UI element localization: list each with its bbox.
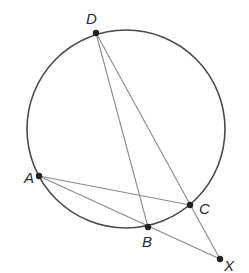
segments bbox=[39, 33, 220, 259]
segment-ac bbox=[39, 176, 190, 205]
segment-dx bbox=[96, 33, 220, 259]
point-c bbox=[187, 202, 193, 208]
label-x: X bbox=[223, 257, 235, 273]
label-b: B bbox=[142, 233, 152, 250]
point-a bbox=[36, 173, 42, 179]
segment-ax bbox=[39, 176, 220, 259]
point-d bbox=[93, 30, 99, 36]
circle-outline bbox=[27, 30, 225, 228]
circle bbox=[27, 30, 225, 228]
label-c: C bbox=[199, 200, 210, 217]
label-d: D bbox=[86, 10, 97, 27]
label-a: A bbox=[23, 169, 34, 186]
point-b bbox=[145, 224, 151, 230]
point-labels: DACBX bbox=[23, 10, 235, 273]
segment-db bbox=[96, 33, 148, 227]
point-x bbox=[217, 256, 223, 262]
geometry-diagram: DACBX bbox=[0, 0, 249, 273]
